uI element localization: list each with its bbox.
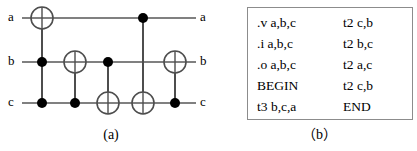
gate-4-cnot <box>132 13 154 114</box>
code-column-right: t2 c,bt2 b,ct2 a,ct2 c,bEND <box>339 12 406 117</box>
gate-1-control-b <box>37 57 47 67</box>
code-columns: .v a,b,c.i a,b,c.o a,b,cBEGINt3 b,c,a t2… <box>257 12 406 117</box>
code-line-right-1: t2 c,b <box>343 12 406 33</box>
code-listing-box: .v a,b,c.i a,b,c.o a,b,cBEGINt3 b,c,a t2… <box>247 7 413 120</box>
code-line-left-5: t3 b,c,a <box>257 96 339 117</box>
gate-2-cnot <box>64 51 86 108</box>
caption-panel-a: (a) <box>0 128 222 142</box>
gate-2-control-c <box>70 98 80 108</box>
code-line-left-3: .o a,b,c <box>257 54 339 75</box>
wire-label-b-left: b <box>8 54 15 67</box>
gate-5-control-c <box>170 98 180 108</box>
wire-label-b-right: b <box>200 54 207 67</box>
code-column-left: .v a,b,c.i a,b,c.o a,b,cBEGINt3 b,c,a <box>257 12 339 117</box>
quantum-circuit-svg <box>0 0 222 128</box>
code-line-right-5: END <box>343 96 406 117</box>
code-line-right-4: t2 c,b <box>343 75 406 96</box>
gate-3-control-b <box>103 57 113 67</box>
gate-3-cnot <box>97 57 119 114</box>
code-line-left-2: .i a,b,c <box>257 33 339 54</box>
caption-panel-b: （b） <box>222 128 417 142</box>
code-line-left-4: BEGIN <box>257 75 339 96</box>
code-line-right-3: t2 a,c <box>343 54 406 75</box>
gate-1-control-c <box>37 98 47 108</box>
wire-label-c-right: c <box>200 95 206 108</box>
code-line-left-1: .v a,b,c <box>257 12 339 33</box>
gate-1-toffoli <box>31 7 53 108</box>
wire-label-a-left: a <box>8 10 14 23</box>
gate-4-control-a <box>138 13 148 23</box>
wire-label-a-right: a <box>200 10 206 23</box>
code-line-right-2: t2 b,c <box>343 33 406 54</box>
gate-5-cnot <box>164 51 186 108</box>
figure-root: a b c a b c (a) .v a,b,c.i a,b,c.o a,b,c… <box>0 0 417 151</box>
wire-label-c-left: c <box>8 95 14 108</box>
